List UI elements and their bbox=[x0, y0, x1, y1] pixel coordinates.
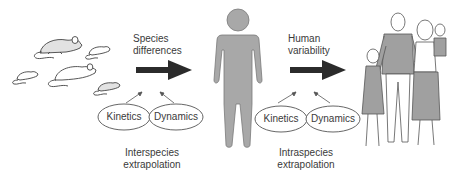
mouse-icon bbox=[86, 47, 110, 60]
intraspecies-extrapolation-caption: Intraspecies extrapolation bbox=[266, 147, 346, 171]
label-line: variability bbox=[288, 45, 330, 57]
caption-line: extrapolation bbox=[266, 159, 346, 171]
rat-icon bbox=[34, 37, 82, 59]
label-line: Human bbox=[288, 33, 330, 45]
label-line: differences bbox=[133, 45, 182, 57]
rodents-group bbox=[13, 37, 120, 96]
species-differences-label: Species differences bbox=[133, 33, 182, 57]
factor-arrows-left bbox=[126, 92, 174, 103]
label-line: Species bbox=[133, 33, 182, 45]
kinetics-label: Kinetics bbox=[98, 111, 150, 122]
species-differences-arrow bbox=[136, 60, 192, 80]
mouse-icon bbox=[13, 72, 38, 85]
caption-line: Interspecies bbox=[112, 147, 192, 159]
dynamics-label: Dynamics bbox=[306, 113, 360, 124]
caption-line: extrapolation bbox=[112, 159, 192, 171]
human-figure-icon bbox=[214, 9, 262, 147]
kinetics-label: Kinetics bbox=[255, 113, 307, 124]
mouse-icon bbox=[94, 83, 120, 96]
baby-figure-icon bbox=[434, 24, 446, 56]
dynamics-label: Dynamics bbox=[149, 111, 203, 122]
human-variability-arrow bbox=[290, 60, 346, 80]
human-population-icon bbox=[362, 13, 446, 146]
diagram-canvas bbox=[0, 0, 452, 176]
factor-arrows-right bbox=[278, 92, 330, 103]
caption-line: Intraspecies bbox=[266, 147, 346, 159]
human-variability-label: Human variability bbox=[288, 33, 330, 57]
interspecies-extrapolation-caption: Interspecies extrapolation bbox=[112, 147, 192, 171]
father-figure-icon bbox=[376, 13, 418, 142]
rat-icon bbox=[48, 64, 96, 87]
